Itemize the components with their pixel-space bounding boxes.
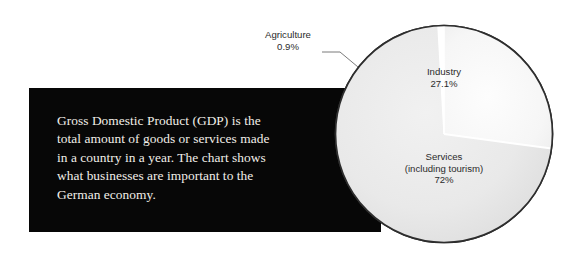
pie-chart-svg <box>334 24 554 244</box>
infographic-canvas: Gross Domestic Product (GDP) is the tota… <box>0 0 583 259</box>
caption-panel: Gross Domestic Product (GDP) is the tota… <box>29 88 381 232</box>
caption-line: German economy. <box>57 186 357 204</box>
caption-line: total amount of goods or services made <box>57 130 357 148</box>
pie-chart <box>334 24 554 244</box>
pie-label-agriculture-value: 0.9% <box>246 41 330 53</box>
pie-label-agriculture: Agriculture 0.9% <box>246 29 330 52</box>
caption-line: in a country in a year. The chart shows <box>57 149 357 167</box>
pie-slice-industry[interactable] <box>444 25 553 148</box>
pie-label-agriculture-name: Agriculture <box>246 29 330 41</box>
caption-line: what businesses are important to the <box>57 167 357 185</box>
caption-text-block: Gross Domestic Product (GDP) is the tota… <box>57 112 357 204</box>
caption-line: Gross Domestic Product (GDP) is the <box>57 112 357 130</box>
